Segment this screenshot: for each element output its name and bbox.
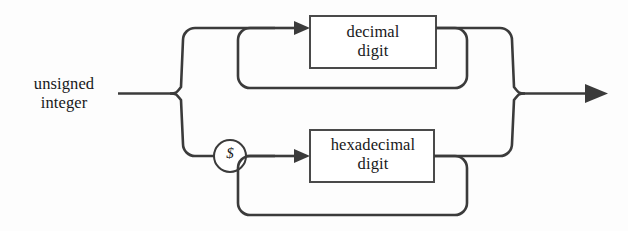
entry-label: unsigned integer [10,74,118,112]
hexadecimal-digit-label: hexadecimal digit [312,135,434,173]
decimal-loop-left-rail [238,28,275,40]
hexadecimal-arrow-icon [294,149,310,163]
split-lower-rail [170,94,213,157]
hexadecimal-exit-rail [434,156,467,168]
decimal-to-merge-rail [436,28,525,94]
dollar-terminal-label: $ [213,145,247,162]
decimal-exit-rail [436,28,467,40]
decimal-arrow-icon [294,21,310,35]
hexadecimal-to-merge-rail [434,94,525,157]
decimal-digit-label: decimal digit [310,22,436,60]
railroad-diagram: unsigned integer decimal digit $ hexadec… [0,0,628,231]
exit-arrow-icon [585,84,608,103]
split-upper-rail [170,28,275,94]
